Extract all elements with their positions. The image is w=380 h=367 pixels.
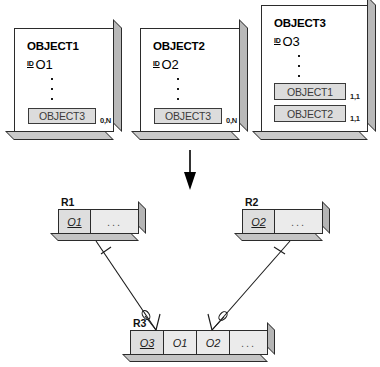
id-label: ID xyxy=(274,37,281,44)
table-face: O3 O1 O2 ... xyxy=(130,330,268,355)
table-face: O1 ... xyxy=(58,209,139,234)
id-value: O3 xyxy=(283,34,300,49)
cardinality-label: 1,1 xyxy=(350,92,360,101)
card-bottom-shade xyxy=(252,131,368,140)
relation-table-r1: O1 ... xyxy=(58,209,146,241)
relation-table-r2: O2 ... xyxy=(242,209,330,241)
table-side-shade xyxy=(322,201,330,234)
table-face: O2 ... xyxy=(242,209,323,234)
card-bottom-shade xyxy=(5,131,114,140)
card-side-shade xyxy=(367,0,376,132)
cardinality-label: 0,N xyxy=(100,116,111,125)
relation-label-r1: R1 xyxy=(61,196,74,208)
table-bottom-shade xyxy=(50,233,139,241)
table-cell: ... xyxy=(91,210,138,233)
object-title: OBJECT2 xyxy=(153,40,205,52)
table-cell: ... xyxy=(275,210,322,233)
id-label: ID xyxy=(27,60,34,67)
diagram-canvas: OBJECT1 IDO1 OBJECT3 0,N OBJECT2 IDO2 OB… xyxy=(0,0,380,367)
relation-label-r3: R3 xyxy=(133,317,146,329)
table-cell: O2 xyxy=(197,331,230,354)
object-identifier: IDO2 xyxy=(153,55,179,73)
object-card-object2: OBJECT2 IDO2 OBJECT3 0,N xyxy=(140,28,248,140)
vertical-dots-icon xyxy=(298,55,300,85)
connector-r2-r3 xyxy=(208,241,290,330)
object-card-object1: OBJECT1 IDO1 OBJECT3 0,N xyxy=(14,28,122,140)
cardinality-label: 0,N xyxy=(226,116,237,125)
object-title: OBJECT1 xyxy=(27,40,79,52)
attribute-box-object2: OBJECT2 xyxy=(274,105,346,122)
id-label: ID xyxy=(153,60,160,67)
id-value: O2 xyxy=(162,57,179,72)
id-value: O1 xyxy=(36,57,53,72)
table-side-shade xyxy=(267,322,275,355)
table-side-shade xyxy=(138,201,146,234)
table-cell-key: O1 xyxy=(59,210,91,233)
card-bottom-shade xyxy=(131,131,240,140)
object-identifier: IDO1 xyxy=(27,55,53,73)
vertical-dots-icon xyxy=(51,78,53,108)
connector-r1-r3 xyxy=(96,241,160,330)
attribute-box-object1: OBJECT1 xyxy=(274,83,346,100)
card-side-shade xyxy=(113,19,122,132)
table-cell: O1 xyxy=(164,331,197,354)
down-arrow-icon xyxy=(184,150,196,190)
attribute-box-object3: OBJECT3 xyxy=(28,108,96,124)
table-cell-key: O3 xyxy=(131,331,164,354)
table-bottom-shade xyxy=(234,233,323,241)
relation-table-r3: O3 O1 O2 ... xyxy=(130,330,275,362)
card-side-shade xyxy=(239,19,248,132)
object-title: OBJECT3 xyxy=(274,17,326,29)
table-cell-key: O2 xyxy=(243,210,275,233)
object-identifier: IDO3 xyxy=(274,32,300,50)
object-card-object3: OBJECT3 IDO3 OBJECT1 1,1 OBJECT2 1,1 xyxy=(261,5,376,140)
attribute-box-object3: OBJECT3 xyxy=(154,108,222,124)
relation-label-r2: R2 xyxy=(245,196,258,208)
table-bottom-shade xyxy=(122,354,268,362)
vertical-dots-icon xyxy=(177,78,179,108)
cardinality-label: 1,1 xyxy=(350,114,360,123)
table-cell: ... xyxy=(230,331,267,354)
